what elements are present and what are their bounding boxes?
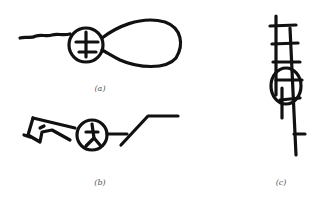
figure: (a) (b) (c) — [0, 0, 321, 201]
glyph-a — [20, 20, 181, 66]
panel-label-a: (a) — [94, 84, 105, 93]
panel-label-c: (c) — [276, 178, 287, 187]
glyph-drawings — [0, 0, 321, 201]
glyph-b — [24, 116, 178, 150]
panel-label-b: (b) — [94, 178, 105, 187]
glyph-c — [270, 16, 305, 155]
